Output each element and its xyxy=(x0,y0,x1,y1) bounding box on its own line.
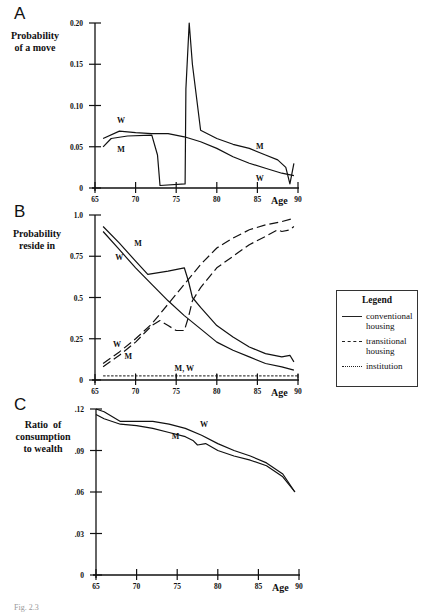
y-tick-label: 0 xyxy=(79,184,83,193)
y-tick-label: 0.05 xyxy=(70,143,83,152)
figure-caption: Fig. 2.3 xyxy=(14,603,39,612)
series-label: M, W xyxy=(175,364,194,373)
x-tick-label: 85 xyxy=(254,195,262,204)
x-tick-label: 65 xyxy=(91,387,99,396)
y-tick-label: .03 xyxy=(75,530,85,539)
x-tick-label: 65 xyxy=(91,195,99,204)
x-tick-label: 85 xyxy=(255,582,263,591)
x-axis-label: Age xyxy=(271,195,288,206)
series-line xyxy=(96,409,295,492)
x-axis-label: Age xyxy=(271,387,288,398)
legend-title: Legend xyxy=(342,295,412,305)
y-tick-label: 0.10 xyxy=(70,102,83,111)
legend-label: institution xyxy=(366,361,403,371)
series-label: M xyxy=(256,142,264,151)
series-line xyxy=(96,415,295,493)
series-label: W xyxy=(113,340,121,349)
legend-label-line: housing xyxy=(366,321,395,331)
legend: Legend conventional housing transitional… xyxy=(336,290,418,387)
x-tick-label: 70 xyxy=(132,387,140,396)
series-label: M xyxy=(134,239,142,248)
series-line xyxy=(103,131,294,176)
x-tick-label: 80 xyxy=(213,387,221,396)
dotted-line-icon xyxy=(342,366,362,367)
series-label: W xyxy=(200,420,208,429)
y-tick-label: 0.5 xyxy=(74,294,84,303)
y-tick-label: 0.20 xyxy=(70,19,83,28)
legend-label: transitional housing xyxy=(366,336,407,356)
legend-item-conventional: conventional housing xyxy=(342,311,412,331)
y-tick-label: .12 xyxy=(75,405,85,414)
legend-label-line: transitional xyxy=(366,336,407,346)
series-label: M xyxy=(125,352,133,361)
x-tick-label: 75 xyxy=(173,582,181,591)
x-tick-label: 80 xyxy=(213,195,221,204)
y-tick-label: .06 xyxy=(75,488,85,497)
legend-label-line: conventional xyxy=(366,311,413,321)
x-tick-label: 70 xyxy=(132,195,140,204)
x-tick-label: 90 xyxy=(295,582,303,591)
series-line xyxy=(103,232,294,371)
dashed-line-icon xyxy=(342,341,362,342)
x-axis-label: Age xyxy=(272,582,289,593)
series-label: W xyxy=(256,174,264,183)
solid-line-icon xyxy=(342,316,362,317)
x-tick-label: 85 xyxy=(254,387,262,396)
y-tick-label: 0.75 xyxy=(70,252,83,261)
x-tick-label: 75 xyxy=(172,195,180,204)
x-tick-label: 90 xyxy=(294,387,302,396)
x-tick-label: 70 xyxy=(133,582,141,591)
series-line xyxy=(103,227,294,367)
y-tick-label: 0 xyxy=(80,571,84,580)
x-tick-label: 80 xyxy=(214,582,222,591)
series-label: M xyxy=(117,145,125,154)
x-tick-label: 65 xyxy=(92,582,100,591)
legend-item-transitional: transitional housing xyxy=(342,336,412,356)
series-label: W xyxy=(115,253,123,262)
y-tick-label: 0 xyxy=(79,376,83,385)
legend-label: conventional housing xyxy=(366,311,413,331)
y-tick-label: 0.25 xyxy=(70,335,83,344)
x-tick-label: 90 xyxy=(294,195,302,204)
y-tick-label: .09 xyxy=(75,447,85,456)
series-line xyxy=(103,227,294,362)
x-tick-label: 75 xyxy=(172,387,180,396)
series-label: W xyxy=(117,116,125,125)
series-label: M xyxy=(172,432,180,441)
series-line xyxy=(103,23,294,186)
y-tick-label: 1.0 xyxy=(74,211,84,220)
legend-label-line: housing xyxy=(366,346,395,356)
y-tick-label: 0.15 xyxy=(70,60,83,69)
legend-item-institution: institution xyxy=(342,361,412,371)
